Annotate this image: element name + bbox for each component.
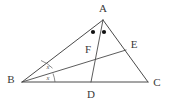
angle-dot-left-icon — [91, 30, 95, 34]
vertex-label-F: F — [85, 43, 91, 55]
vertex-label-E: E — [131, 38, 138, 50]
geometry-diagram: A B C D E F x x — [0, 0, 169, 107]
vertex-label-A: A — [99, 2, 107, 14]
vertex-label-B: B — [7, 73, 14, 85]
angle-label-x-lower: x — [46, 74, 50, 81]
vertex-label-D: D — [87, 88, 95, 100]
cevian-BE-line — [22, 50, 126, 82]
side-CA-line — [103, 20, 148, 82]
vertex-label-C: C — [153, 76, 160, 88]
geometry-canvas: A B C D E F x x — [0, 0, 169, 107]
cevian-AD-line — [91, 20, 103, 82]
angle-label-x-upper: x — [46, 63, 50, 70]
angle-dot-right-icon — [102, 30, 106, 34]
angle-arc-lower-b-icon — [53, 74, 55, 83]
